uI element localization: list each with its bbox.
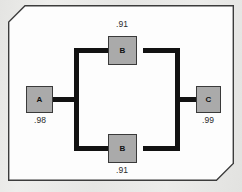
block-b-top[interactable]: B: [108, 36, 137, 65]
screenshot-root: A B B C .98 .91 .91 .99: [0, 0, 242, 192]
value-label-a: .98: [24, 115, 56, 125]
block-a[interactable]: A: [26, 86, 53, 113]
value-label-b-top: .91: [106, 19, 138, 29]
block-c[interactable]: C: [196, 86, 221, 113]
block-b-bottom[interactable]: B: [108, 134, 137, 163]
block-b-top-label: B: [119, 46, 125, 55]
block-a-label: A: [36, 95, 42, 104]
reliability-block-diagram: A B B C .98 .91 .91 .99: [8, 5, 234, 181]
block-c-label: C: [205, 95, 211, 104]
wire-left-vertical-bus: [74, 48, 79, 151]
block-b-bottom-label: B: [119, 144, 125, 153]
value-label-c: .99: [192, 115, 224, 125]
value-label-b-bottom: .91: [106, 165, 138, 175]
